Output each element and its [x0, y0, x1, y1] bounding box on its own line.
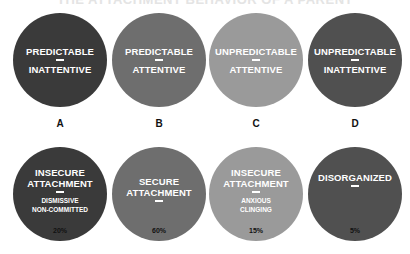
- child-b-line1: SECURE: [139, 176, 179, 187]
- dash-divider: [252, 59, 260, 61]
- letter-label-c: C: [209, 118, 303, 129]
- dash-divider: [351, 185, 359, 187]
- parent-c-line1: UNPREDICTABLE: [215, 46, 297, 57]
- percent-label: 5%: [308, 227, 402, 234]
- child-a-line1: INSECURE: [35, 167, 85, 178]
- dash-divider: [155, 59, 163, 61]
- parent-b-line2: ATTENTIVE: [133, 64, 186, 75]
- parent-d-line1: UNPREDICTABLE: [314, 46, 396, 57]
- letter-label-d: D: [308, 118, 402, 129]
- child-a-sub2: NON-COMMITTED: [32, 206, 88, 214]
- child-circle-anxious: INSECURE ATTACHMENT ANXIOUS CLINGING 15%: [209, 147, 303, 241]
- diagram-title: THE ATTACHMENT BEHAVIOR OF A PARENT: [0, 0, 410, 7]
- dash-divider: [252, 191, 260, 193]
- dash-divider: [56, 59, 64, 61]
- child-d-line1: DISORGANIZED: [318, 172, 392, 183]
- child-c-sub2: CLINGING: [240, 206, 272, 214]
- parent-circle-c: UNPREDICTABLE ATTENTIVE: [209, 13, 303, 107]
- letter-label-a: A: [13, 118, 107, 129]
- parent-b-line1: PREDICTABLE: [125, 46, 193, 57]
- percent-label: 15%: [209, 227, 303, 234]
- parent-circle-a: PREDICTABLE INATTENTIVE: [13, 13, 107, 107]
- percent-label: 60%: [112, 227, 206, 234]
- child-c-sub1: ANXIOUS: [241, 197, 271, 205]
- dash-divider: [56, 191, 64, 193]
- attachment-diagram: THE ATTACHMENT BEHAVIOR OF A PARENT PRED…: [0, 0, 410, 254]
- child-c-line1: INSECURE: [231, 167, 281, 178]
- child-circle-secure: SECURE ATTACHMENT 60%: [112, 147, 206, 241]
- dash-divider: [155, 200, 163, 202]
- child-circle-disorganized: DISORGANIZED 5%: [308, 147, 402, 241]
- percent-label: 20%: [13, 227, 107, 234]
- child-circle-dismissive: INSECURE ATTACHMENT DISMISSIVE NON-COMMI…: [13, 147, 107, 241]
- letter-label-b: B: [112, 118, 206, 129]
- dash-divider: [351, 59, 359, 61]
- parent-a-line1: PREDICTABLE: [26, 46, 94, 57]
- parent-circle-d: UNPREDICTABLE INATTENTIVE: [308, 13, 402, 107]
- child-a-sub1: DISMISSIVE: [41, 197, 78, 205]
- parent-d-line2: INATTENTIVE: [324, 64, 387, 75]
- parent-c-line2: ATTENTIVE: [230, 64, 283, 75]
- child-c-line2: ATTACHMENT: [223, 178, 289, 189]
- parent-a-line2: INATTENTIVE: [29, 64, 92, 75]
- parent-circle-b: PREDICTABLE ATTENTIVE: [112, 13, 206, 107]
- child-a-line2: ATTACHMENT: [27, 178, 93, 189]
- child-b-line2: ATTACHMENT: [126, 187, 192, 198]
